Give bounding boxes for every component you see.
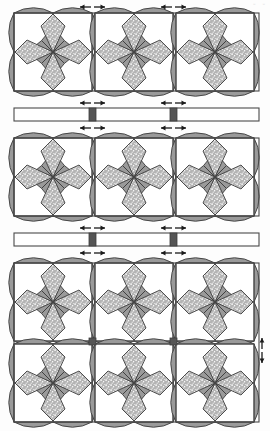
- panel-middle[interactable]: [9, 133, 259, 221]
- tile[interactable]: [90, 133, 178, 221]
- joint-block[interactable]: [89, 108, 96, 121]
- dimension-marker: [161, 251, 186, 256]
- joint-block[interactable]: [89, 338, 96, 345]
- joint-block[interactable]: [89, 233, 96, 246]
- tile[interactable]: [9, 339, 97, 427]
- dimension-marker: [80, 251, 105, 256]
- dimension-marker: [161, 126, 186, 131]
- tile-layout-drawing: [0, 0, 270, 431]
- panel-bottom[interactable]: [9, 258, 259, 427]
- tile[interactable]: [9, 133, 97, 221]
- tile[interactable]: [90, 258, 178, 346]
- dimension-marker: [80, 5, 105, 10]
- dimension-marker: [161, 226, 186, 231]
- tile[interactable]: [9, 8, 97, 96]
- joint-block[interactable]: [170, 338, 177, 345]
- right-edge-marker: [260, 338, 265, 363]
- tile[interactable]: [90, 8, 178, 96]
- panel-top[interactable]: [9, 5, 259, 97]
- rail-upper[interactable]: [14, 101, 259, 131]
- dimension-marker: [80, 101, 105, 106]
- rail-lower[interactable]: [14, 226, 259, 256]
- dimension-marker: [80, 226, 105, 231]
- joint-block[interactable]: [170, 108, 177, 121]
- dimension-marker: [161, 101, 186, 106]
- tile[interactable]: [90, 339, 178, 427]
- dimension-marker: [161, 5, 186, 10]
- tile[interactable]: [171, 133, 259, 221]
- joint-block[interactable]: [170, 233, 177, 246]
- tile[interactable]: [171, 339, 259, 427]
- tile[interactable]: [171, 258, 259, 346]
- tile[interactable]: [171, 8, 259, 96]
- tile[interactable]: [9, 258, 97, 346]
- dimension-marker: [80, 126, 105, 131]
- figure-canvas: ▫ ▫: [0, 0, 270, 431]
